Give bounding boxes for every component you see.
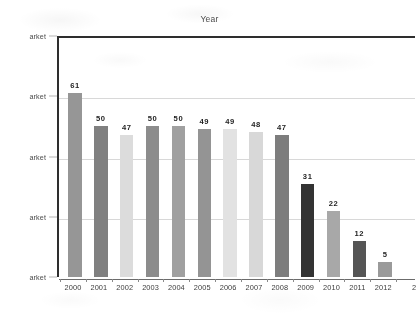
x-tick-label-2001: 2001 bbox=[90, 283, 107, 292]
bar bbox=[223, 129, 236, 277]
x-tick-mark bbox=[241, 279, 242, 282]
y-tick-mark-80 bbox=[49, 36, 57, 37]
bar-value-label: 50 bbox=[96, 114, 106, 123]
bars-layer: 6150475050494948473122125 bbox=[59, 38, 415, 277]
bar bbox=[94, 126, 107, 277]
x-tick-label-2003: 2003 bbox=[142, 283, 159, 292]
chart-title: Year bbox=[0, 14, 419, 24]
y-tick-mark-40 bbox=[49, 156, 57, 157]
bar-value-label: 12 bbox=[355, 229, 365, 238]
x-tick-label-2012: 2012 bbox=[375, 283, 392, 292]
x-tick-mark bbox=[370, 279, 371, 282]
bar-value-label: 5 bbox=[383, 250, 388, 259]
plot-area: 6150475050494948473122125 bbox=[57, 36, 415, 277]
bar bbox=[353, 241, 366, 277]
x-tick-label-2000: 2000 bbox=[65, 283, 82, 292]
bar-group: 49 bbox=[198, 38, 211, 277]
bar bbox=[120, 135, 133, 277]
y-tick-mark-60 bbox=[49, 96, 57, 97]
bar-group: 50 bbox=[172, 38, 185, 277]
x-tick-label-2007: 2007 bbox=[246, 283, 263, 292]
x-tick-mark bbox=[163, 279, 164, 282]
bar-value-label: 31 bbox=[303, 172, 313, 181]
bar bbox=[68, 93, 81, 277]
x-tick-label-2009: 2009 bbox=[297, 283, 314, 292]
x-tick-mark bbox=[267, 279, 268, 282]
x-axis-label-clipped: 2 bbox=[412, 283, 419, 292]
x-axis: 2000200120022003200420052006200720082009… bbox=[57, 279, 415, 299]
bar-value-label: 22 bbox=[329, 199, 339, 208]
x-tick-mark bbox=[112, 279, 113, 282]
bar-group: 61 bbox=[68, 38, 81, 277]
y-tick-label-80: arket bbox=[30, 32, 46, 41]
y-tick-label-0: arket bbox=[30, 273, 46, 282]
x-tick-mark bbox=[86, 279, 87, 282]
bar-value-label: 48 bbox=[251, 120, 261, 129]
bar-value-label: 50 bbox=[174, 114, 184, 123]
y-tick-mark-0 bbox=[49, 277, 57, 278]
bar bbox=[275, 135, 288, 277]
bar bbox=[378, 262, 391, 277]
x-tick-label-2011: 2011 bbox=[349, 283, 365, 292]
bar-value-label: 61 bbox=[70, 81, 80, 90]
x-tick-label-2006: 2006 bbox=[220, 283, 237, 292]
bar-group: 22 bbox=[327, 38, 340, 277]
bar-group: 49 bbox=[223, 38, 236, 277]
bar bbox=[301, 184, 314, 277]
bar-group: 31 bbox=[301, 38, 314, 277]
bar-value-label: 47 bbox=[122, 123, 132, 132]
x-tick-mark bbox=[215, 279, 216, 282]
y-tick-mark-20 bbox=[49, 216, 57, 217]
bar-chart: Year arketarketarketarketarket 615047505… bbox=[0, 0, 419, 315]
bar-group: 47 bbox=[120, 38, 133, 277]
x-tick-mark bbox=[60, 279, 61, 282]
bar bbox=[327, 211, 340, 277]
x-tick-mark bbox=[319, 279, 320, 282]
x-tick-mark bbox=[293, 279, 294, 282]
bar-group: 48 bbox=[249, 38, 262, 277]
bar-value-label: 49 bbox=[225, 117, 235, 126]
bar bbox=[172, 126, 185, 277]
y-tick-label-40: arket bbox=[30, 152, 46, 161]
bar bbox=[198, 129, 211, 277]
y-tick-label-60: arket bbox=[30, 92, 46, 101]
x-tick-label-2004: 2004 bbox=[168, 283, 185, 292]
bar-group: 12 bbox=[353, 38, 366, 277]
bar bbox=[249, 132, 262, 277]
bar-group: 50 bbox=[94, 38, 107, 277]
x-tick-mark bbox=[396, 279, 397, 282]
bar-group: 5 bbox=[378, 38, 391, 277]
bar-value-label: 47 bbox=[277, 123, 287, 132]
plot-inner: 6150475050494948473122125 bbox=[59, 38, 415, 277]
x-tick-mark bbox=[138, 279, 139, 282]
x-tick-label-2005: 2005 bbox=[194, 283, 211, 292]
x-tick-mark bbox=[344, 279, 345, 282]
x-tick-mark bbox=[189, 279, 190, 282]
y-axis: arketarketarketarketarket bbox=[0, 36, 57, 277]
x-tick-label-2008: 2008 bbox=[271, 283, 288, 292]
bar-value-label: 50 bbox=[148, 114, 158, 123]
x-tick-label-2002: 2002 bbox=[116, 283, 133, 292]
bar-group: 50 bbox=[146, 38, 159, 277]
bar bbox=[146, 126, 159, 277]
bar-value-label: 49 bbox=[199, 117, 209, 126]
x-tick-label-2010: 2010 bbox=[323, 283, 340, 292]
y-tick-label-20: arket bbox=[30, 212, 46, 221]
bar-group: 47 bbox=[275, 38, 288, 277]
